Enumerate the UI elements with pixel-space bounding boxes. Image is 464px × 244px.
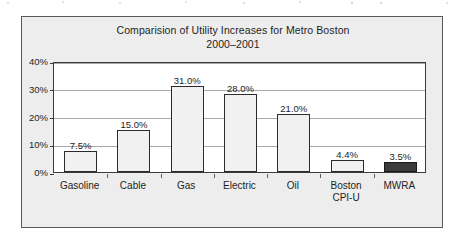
bar-value-label: 21.0% <box>264 103 324 114</box>
x-axis-tick-mark <box>107 174 108 178</box>
bar-value-label: 31.0% <box>157 75 217 86</box>
x-axis-tick-mark <box>320 174 321 178</box>
plot-area: 7.5%15.0%31.0%28.0%21.0%4.4%3.5% <box>53 62 426 173</box>
x-axis-tick-mark <box>214 174 215 178</box>
y-axis-tick-mark <box>50 118 54 119</box>
x-axis-label-electric: Electric <box>213 180 266 192</box>
x-axis-label-gas: Gas <box>160 180 213 192</box>
bar-electric <box>224 94 257 172</box>
x-axis-label-boston-cpi-u: Boston CPI-U <box>319 180 372 203</box>
x-axis-label-gasoline: Gasoline <box>53 180 106 192</box>
bar-value-label: 28.0% <box>211 83 271 94</box>
x-axis-tick-mark <box>161 174 162 178</box>
x-axis-tick-mark <box>267 174 268 178</box>
y-axis-tick-mark <box>50 63 54 64</box>
y-axis-tick-label: 30% <box>18 85 48 95</box>
bar-gasoline <box>64 151 97 172</box>
bar-value-label: 4.4% <box>317 149 377 160</box>
chart-title-line1: Comparision of Utility Increases for Met… <box>116 24 349 36</box>
bar-gas <box>171 86 204 172</box>
x-axis-label-oil: Oil <box>266 180 319 192</box>
y-axis-tick-label: 10% <box>18 140 48 150</box>
y-axis-tick-label: 0% <box>18 168 48 178</box>
bar-value-label: 15.0% <box>104 119 164 130</box>
bar-boston-cpi-u <box>331 160 364 172</box>
y-axis-tick-mark <box>50 174 54 175</box>
x-axis-label-cable: Cable <box>106 180 159 192</box>
bar-value-label: 7.5% <box>51 140 111 151</box>
y-axis-tick-mark <box>50 90 54 91</box>
bar-mwra <box>384 162 417 172</box>
bar-value-label: 3.5% <box>370 151 430 162</box>
bar-oil <box>277 114 310 172</box>
y-axis-tick-label: 20% <box>18 113 48 123</box>
y-axis-tick-label: 40% <box>18 57 48 67</box>
x-axis-label-mwra: MWRA <box>373 180 426 192</box>
chart-figure-frame: Comparision of Utility Increases for Met… <box>21 16 443 228</box>
bar-cable <box>117 130 150 172</box>
scan-noise <box>0 0 464 8</box>
gridline <box>54 63 425 64</box>
x-axis-tick-mark <box>374 174 375 178</box>
chart-title-line2: 2000–2001 <box>22 37 444 51</box>
chart-title: Comparision of Utility Increases for Met… <box>22 23 444 51</box>
